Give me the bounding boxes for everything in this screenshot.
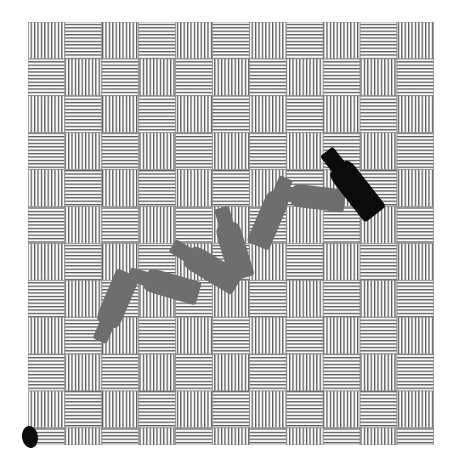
weave-tile: [28, 59, 65, 96]
weave-tile: [397, 170, 434, 207]
weave-tile: [176, 22, 213, 59]
weave-tile: [360, 96, 397, 133]
figure-root: [0, 0, 461, 471]
weave-tile: [360, 243, 397, 280]
weave-tile: [102, 22, 139, 59]
weave-tile: [360, 133, 397, 170]
weave-tile: [249, 22, 286, 59]
weave-tile: [102, 428, 139, 445]
weave-tile: [323, 280, 360, 317]
weave-tile: [360, 280, 397, 317]
weave-tile: [213, 170, 250, 207]
weave-tile: [213, 96, 250, 133]
weave-tile: [213, 133, 250, 170]
weave-tile: [323, 354, 360, 391]
weave-tile: [176, 391, 213, 428]
weave-tile: [249, 317, 286, 354]
weave-tile: [249, 59, 286, 96]
weave-tile: [397, 96, 434, 133]
weave-tile: [28, 391, 65, 428]
weave-tile: [102, 354, 139, 391]
weave-tile: [323, 317, 360, 354]
weave-tile: [397, 22, 434, 59]
weave-tile: [28, 354, 65, 391]
weave-tile: [286, 317, 323, 354]
weave-tile: [139, 207, 176, 244]
weave-tile: [397, 280, 434, 317]
weave-tile: [360, 317, 397, 354]
weave-tile: [360, 354, 397, 391]
weave-tile: [397, 207, 434, 244]
illustration-canvas: [0, 0, 461, 471]
weave-tile: [28, 96, 65, 133]
weave-tile: [323, 428, 360, 445]
weave-tile: [139, 22, 176, 59]
weave-tile: [213, 22, 250, 59]
weave-tile: [397, 354, 434, 391]
weave-tile: [176, 317, 213, 354]
weave-tile: [213, 317, 250, 354]
weave-tile: [65, 22, 102, 59]
weave-tile: [65, 280, 102, 317]
weave-tile: [176, 354, 213, 391]
weave-tile: [176, 133, 213, 170]
weave-tile: [286, 354, 323, 391]
weave-tile: [139, 133, 176, 170]
weave-tile: [102, 207, 139, 244]
weave-tile: [397, 317, 434, 354]
weave-tile: [102, 96, 139, 133]
weave-tile: [323, 391, 360, 428]
weave-tile: [286, 22, 323, 59]
weave-tile: [397, 243, 434, 280]
weave-tile: [323, 59, 360, 96]
weave-tile: [397, 133, 434, 170]
weave-tile: [360, 22, 397, 59]
weave-tile: [139, 354, 176, 391]
weave-tile: [176, 207, 213, 244]
weave-tile: [397, 391, 434, 428]
weave-tile: [102, 133, 139, 170]
weave-tile: [286, 391, 323, 428]
weave-tile: [139, 170, 176, 207]
weave-tile: [360, 59, 397, 96]
weave-tile: [139, 96, 176, 133]
weave-tile: [102, 391, 139, 428]
weave-tile: [360, 428, 397, 445]
weave-tile: [139, 391, 176, 428]
weave-tile: [65, 354, 102, 391]
weave-tile: [176, 170, 213, 207]
weave-tile: [65, 96, 102, 133]
weave-tile: [286, 428, 323, 445]
weave-tile: [176, 59, 213, 96]
weave-tile: [286, 133, 323, 170]
weave-tile: [102, 170, 139, 207]
weave-tile: [323, 22, 360, 59]
weave-tile: [28, 280, 65, 317]
weave-tile: [213, 354, 250, 391]
weave-tile: [397, 428, 434, 445]
weave-tile: [28, 170, 65, 207]
weave-tile: [249, 96, 286, 133]
weave-tile: [139, 428, 176, 445]
weave-tile: [249, 133, 286, 170]
weave-tile: [65, 243, 102, 280]
weave-tile: [28, 133, 65, 170]
weave-tile: [249, 354, 286, 391]
weave-tile: [286, 59, 323, 96]
weave-tile: [213, 391, 250, 428]
weave-tile: [286, 96, 323, 133]
weave-tile: [286, 207, 323, 244]
weave-tile: [249, 280, 286, 317]
weave-tile: [360, 391, 397, 428]
weave-tile: [28, 243, 65, 280]
weave-tile: [28, 317, 65, 354]
weave-tile: [213, 428, 250, 445]
weave-tile: [28, 207, 65, 244]
weave-tile: [65, 170, 102, 207]
weave-tile: [65, 391, 102, 428]
weave-tile: [139, 59, 176, 96]
weave-tile: [249, 428, 286, 445]
weave-tile: [323, 96, 360, 133]
weave-tile: [176, 96, 213, 133]
weave-tile: [286, 280, 323, 317]
